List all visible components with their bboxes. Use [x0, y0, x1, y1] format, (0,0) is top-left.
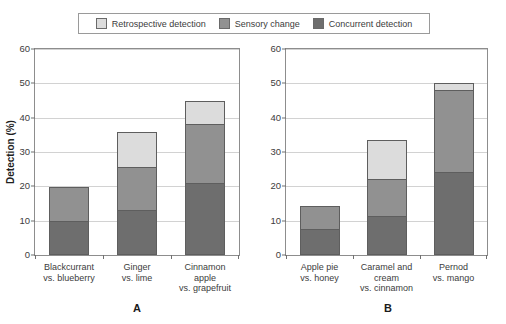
x-tick-mark	[286, 255, 287, 259]
y-tick-label: 10	[19, 216, 30, 226]
x-axis-label: Gingervs. lime	[100, 262, 174, 283]
x-tick-mark	[35, 255, 36, 259]
y-tick-label: 50	[270, 78, 281, 88]
y-axis-title-a: Detection (%)	[5, 120, 16, 184]
bar-segment-retrospective	[185, 101, 225, 125]
bars-a: Blackcurrantvs. blueberryGingervs. limeC…	[35, 49, 239, 255]
x-tick-mark	[353, 255, 354, 259]
panel-letter-a: A	[34, 302, 240, 314]
bar-stack[interactable]	[117, 132, 157, 255]
legend-swatch-concurrent	[313, 18, 324, 29]
y-tick-label: 20	[19, 181, 30, 191]
bar-stack[interactable]	[434, 83, 474, 255]
bar-segment-sensory	[185, 124, 225, 184]
bar-segment-concurrent	[300, 229, 340, 255]
bar-segment-concurrent	[117, 210, 157, 255]
y-tick-label: 20	[270, 181, 281, 191]
bar-segment-sensory	[434, 90, 474, 173]
plot-area-b: 0102030405060 Apple pievs. honeyCaramel …	[285, 48, 488, 256]
panel-letter-b: B	[285, 302, 491, 314]
bar-segment-sensory	[300, 206, 340, 231]
x-tick-mark	[420, 255, 421, 259]
y-tick-label: 0	[276, 250, 281, 260]
x-axis-label: Caramel andcreamvs. cinnamon	[350, 262, 424, 294]
legend-label-sensory: Sensory change	[235, 19, 300, 29]
plot-area-a: Detection (%) 0102030405060 Blackcurrant…	[34, 48, 240, 256]
x-axis-label: Cinnamonapplevs. grapefruit	[168, 262, 242, 294]
legend-label-concurrent: Concurrent detection	[329, 19, 413, 29]
x-axis-label: Pernodvs. mango	[417, 262, 491, 283]
bar-segment-sensory	[367, 179, 407, 217]
y-tick-label: 0	[25, 250, 30, 260]
x-tick-mark	[171, 255, 172, 259]
y-tick-label: 40	[270, 113, 281, 123]
bar-stack[interactable]	[49, 187, 89, 255]
legend-swatch-retrospective	[96, 18, 107, 29]
y-tick-label: 30	[19, 147, 30, 157]
chart-panel-a: Detection (%) 0102030405060 Blackcurrant…	[34, 48, 240, 256]
y-tick-label: 60	[270, 44, 281, 54]
bar-segment-retrospective	[367, 140, 407, 180]
legend-entry-concurrent: Concurrent detection	[313, 18, 413, 29]
x-tick-mark	[486, 255, 487, 259]
bar-segment-sensory	[117, 167, 157, 212]
y-tick-label: 30	[270, 147, 281, 157]
bar-stack[interactable]	[300, 206, 340, 255]
bar-segment-sensory	[49, 187, 89, 221]
bar-segment-concurrent	[367, 216, 407, 255]
y-tick-label: 10	[270, 216, 281, 226]
bar-stack[interactable]	[367, 140, 407, 255]
chart-panel-b: 0102030405060 Apple pievs. honeyCaramel …	[285, 48, 488, 256]
legend-label-retrospective: Retrospective detection	[112, 19, 206, 29]
x-axis-label: Blackcurrantvs. blueberry	[32, 262, 106, 283]
bar-stack[interactable]	[185, 101, 225, 255]
legend-entry-sensory: Sensory change	[219, 18, 300, 29]
bar-segment-retrospective	[117, 132, 157, 167]
legend-swatch-sensory	[219, 18, 230, 29]
bars-b: Apple pievs. honeyCaramel andcreamvs. ci…	[286, 49, 487, 255]
y-tick-label: 50	[19, 78, 30, 88]
y-tick-label: 60	[19, 44, 30, 54]
bar-segment-concurrent	[434, 172, 474, 255]
chart-legend: Retrospective detection Sensory change C…	[78, 13, 430, 34]
bar-segment-concurrent	[49, 221, 89, 255]
bar-segment-concurrent	[185, 183, 225, 255]
x-tick-mark	[238, 255, 239, 259]
legend-entry-retrospective: Retrospective detection	[96, 18, 206, 29]
y-tick-label: 40	[19, 113, 30, 123]
x-axis-label: Apple pievs. honey	[283, 262, 357, 283]
x-tick-mark	[103, 255, 104, 259]
